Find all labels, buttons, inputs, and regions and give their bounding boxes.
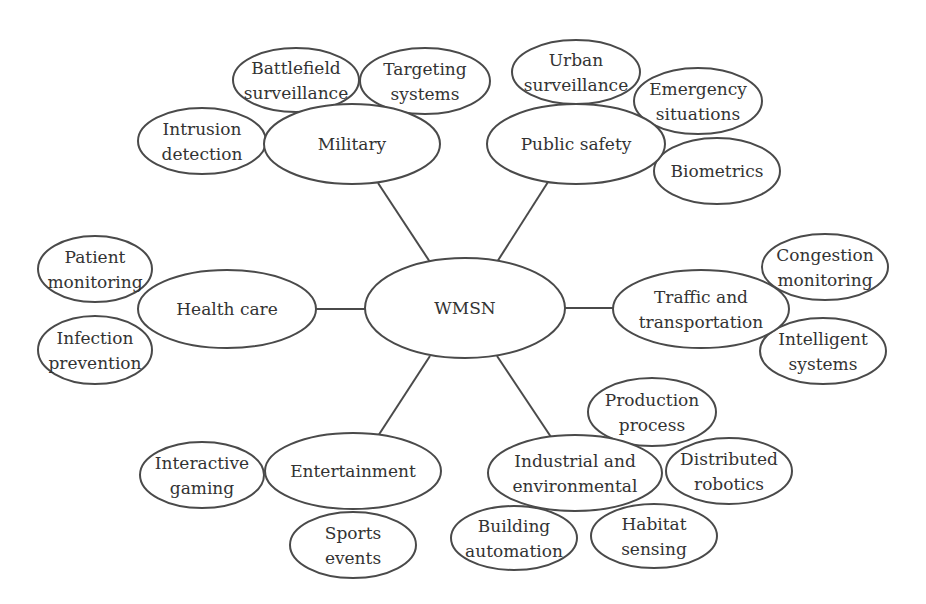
sports-events-label: events — [325, 548, 381, 568]
health-care-node: Health care — [138, 270, 316, 348]
battlefield-surveillance-label: Battlefield — [251, 58, 341, 78]
interactive-gaming-label: Interactive — [155, 453, 249, 473]
traffic-and-transportation-label: transportation — [639, 312, 763, 332]
intrusion-detection-label: detection — [162, 144, 243, 164]
patient-monitoring-node: Patientmonitoring — [38, 236, 152, 302]
connector-wmsn-public-safety — [497, 182, 548, 262]
industrial-and-environmental-node: Industrial andenvironmental — [488, 435, 662, 511]
connector-wmsn-entertainment — [378, 356, 430, 436]
infection-prevention-ellipse — [38, 316, 152, 384]
health-care-label: Health care — [176, 299, 278, 319]
emergency-situations-label: situations — [656, 104, 740, 124]
building-automation-label: automation — [465, 541, 563, 561]
habitat-sensing-label: Habitat — [621, 514, 686, 534]
traffic-and-transportation-node: Traffic andtransportation — [613, 270, 789, 348]
infection-prevention-node: Infectionprevention — [38, 316, 152, 384]
congestion-monitoring-node: Congestionmonitoring — [762, 234, 888, 300]
building-automation-label: Building — [478, 516, 551, 536]
industrial-and-environmental-label: environmental — [513, 476, 638, 496]
intelligent-systems-label: systems — [789, 354, 858, 374]
production-process-label: process — [619, 415, 685, 435]
urban-surveillance-label: Urban — [549, 50, 603, 70]
biometrics-label: Biometrics — [671, 161, 764, 181]
infection-prevention-label: prevention — [48, 353, 141, 373]
entertainment-label: Entertainment — [290, 461, 416, 481]
production-process-label: Production — [605, 390, 700, 410]
targeting-systems-node: Targetingsystems — [360, 48, 490, 114]
production-process-ellipse — [588, 378, 716, 446]
distributed-robotics-node: Distributedrobotics — [666, 438, 792, 504]
entertainment-node: Entertainment — [265, 433, 441, 509]
battlefield-surveillance-node: Battlefieldsurveillance — [233, 48, 359, 112]
military-label: Military — [318, 134, 387, 154]
connector-wmsn-industrial-and-environmental — [497, 356, 551, 437]
sports-events-label: Sports — [325, 523, 381, 543]
emergency-situations-label: Emergency — [649, 79, 747, 99]
patient-monitoring-label: monitoring — [47, 272, 142, 292]
traffic-and-transportation-label: Traffic and — [654, 287, 748, 307]
building-automation-node: Buildingautomation — [451, 506, 577, 570]
wmsn-applications-diagram: BattlefieldsurveillanceTargetingsystemsI… — [0, 0, 926, 604]
distributed-robotics-label: Distributed — [680, 449, 778, 469]
congestion-monitoring-label: Congestion — [776, 245, 873, 265]
industrial-and-environmental-label: Industrial and — [514, 451, 636, 471]
interactive-gaming-label: gaming — [170, 478, 235, 498]
habitat-sensing-label: sensing — [621, 539, 687, 559]
targeting-systems-label: systems — [391, 84, 460, 104]
hub-node: WMSN — [365, 258, 565, 358]
intrusion-detection-node: Intrusiondetection — [138, 108, 266, 174]
infection-prevention-label: Infection — [57, 328, 134, 348]
industrial-and-environmental-ellipse — [488, 435, 662, 511]
interactive-gaming-node: Interactivegaming — [140, 442, 264, 508]
targeting-systems-label: Targeting — [383, 59, 466, 79]
wmsn-label: WMSN — [434, 298, 496, 318]
connector-wmsn-military — [378, 183, 430, 262]
congestion-monitoring-label: monitoring — [777, 270, 872, 290]
distributed-robotics-label: robotics — [694, 474, 764, 494]
intrusion-detection-label: Intrusion — [163, 119, 242, 139]
biometrics-node: Biometrics — [654, 138, 780, 204]
traffic-and-transportation-ellipse — [613, 270, 789, 348]
habitat-sensing-node: Habitatsensing — [591, 504, 717, 568]
wmsn-node: WMSN — [365, 258, 565, 358]
battlefield-surveillance-label: surveillance — [244, 83, 348, 103]
patient-monitoring-label: Patient — [65, 247, 126, 267]
public-safety-label: Public safety — [521, 134, 632, 154]
public-safety-node: Public safety — [487, 104, 665, 184]
urban-surveillance-label: surveillance — [524, 75, 628, 95]
production-process-node: Productionprocess — [588, 378, 716, 446]
sports-events-node: Sportsevents — [290, 512, 416, 578]
intelligent-systems-label: Intelligent — [778, 329, 868, 349]
urban-surveillance-node: Urbansurveillance — [512, 40, 640, 104]
military-node: Military — [264, 104, 440, 184]
